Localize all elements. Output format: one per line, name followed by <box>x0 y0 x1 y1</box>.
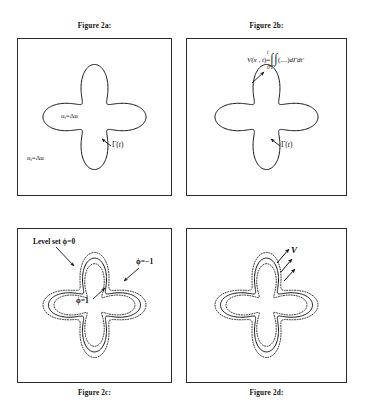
label-interface-gamma-2a: Γ(t) <box>112 141 123 149</box>
label-exterior-heat-equation: ut=Δu <box>27 155 44 163</box>
boundary-integral-arrow-2b <box>252 72 264 83</box>
label-phi-negative-one: ϕ=−1 <box>136 258 153 266</box>
phi-positive-pointer-arrow-2c <box>93 288 105 299</box>
label-level-set-zero: Level set ϕ=0 <box>33 238 75 245</box>
label-boundary-integral-formula: V(x , t)=∫t0∫Γ(....)dΓdt′ <box>247 55 304 65</box>
phi-negative-pointer-arrow-2c <box>124 268 139 281</box>
star-curve-2b <box>215 64 318 169</box>
label-normal-velocity-V: V <box>291 246 297 255</box>
label-phi-positive-one: ϕ=1 <box>76 297 89 305</box>
label-interior-heat-equation: ut=Δu <box>61 113 78 121</box>
label-interface-gamma-2b: Γ(t) <box>281 141 292 149</box>
star-curve-2a <box>43 64 146 169</box>
figure-plate: Figure 2a: Figure 2b: Figure 2c: Figure … <box>0 0 365 413</box>
level-set-pointer-arrow-2c <box>56 247 74 266</box>
interface-pointer-arrow-2a <box>102 139 111 146</box>
contours-2d <box>215 252 318 357</box>
interface-pointer-arrow-2b <box>271 139 280 146</box>
contours-2c <box>43 252 146 357</box>
curves-layer <box>0 0 365 413</box>
